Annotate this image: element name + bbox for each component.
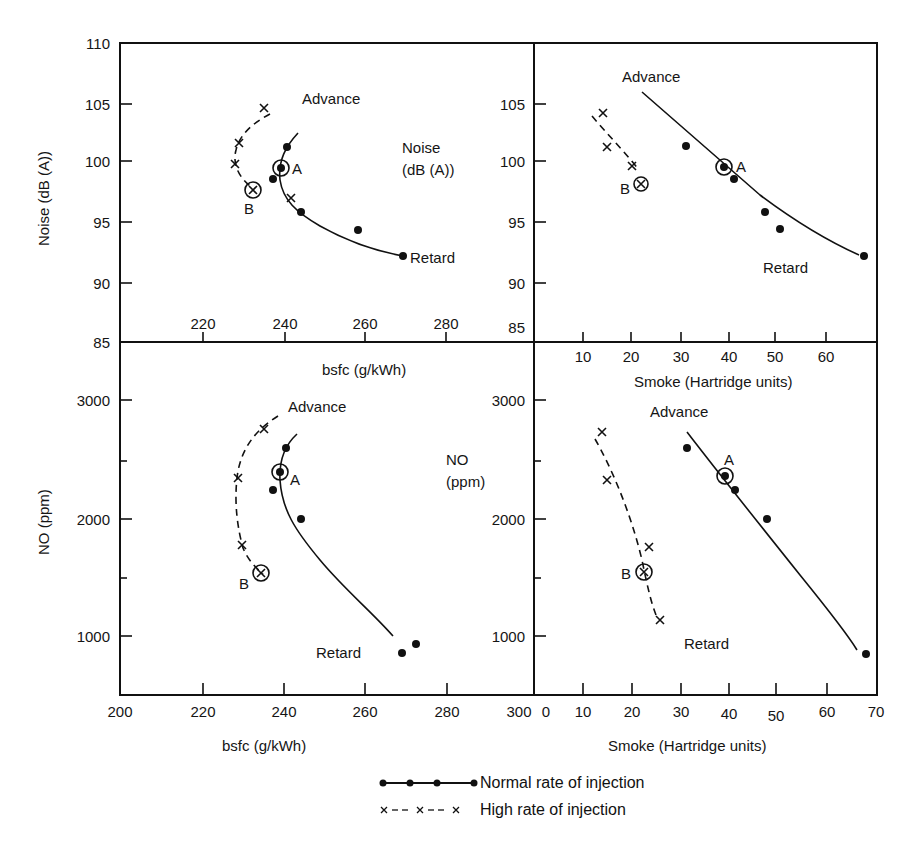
axis-label-no: NO (ppm) [36, 489, 51, 555]
tick-noise-right-95: 95 [465, 215, 525, 230]
tick-noise-right-100: 100 [465, 154, 525, 169]
advance-label-ur: Advance [622, 69, 680, 84]
tick-smoke-20: 20 [607, 704, 657, 719]
retard-label-ul: Retard [410, 250, 455, 265]
tick-smoke-60: 60 [802, 704, 852, 719]
tick-bsfc-200: 200 [95, 704, 145, 719]
tick-noise-95: 95 [50, 215, 110, 230]
normal-curve [687, 432, 857, 650]
point-a-label-ll: A [290, 472, 300, 487]
tick-no-right-1000: 1000 [465, 629, 525, 644]
retard-label-lr: Retard [684, 636, 729, 651]
tick-smoke-top-30: 30 [656, 349, 706, 364]
point-a-label-lr: A [724, 452, 734, 467]
panel-noise-bsfc [231, 104, 407, 260]
point-a-label-ur: A [736, 159, 746, 174]
retard-label-ll: Retard [316, 645, 361, 660]
tick-smoke-top-60: 60 [801, 349, 851, 364]
tick-no-1000: 1000 [50, 629, 110, 644]
high-curve [236, 416, 278, 574]
retard-label-ur: Retard [763, 260, 808, 275]
tick-smoke-top-10: 10 [558, 349, 608, 364]
high-curve [592, 116, 639, 170]
tick-noise-right-85: 85 [465, 320, 525, 335]
high-points [234, 425, 268, 577]
legend-normal-label: Normal rate of injection [480, 775, 645, 791]
tick-bsfc-top-240: 240 [260, 316, 310, 331]
tick-noise-85: 85 [50, 335, 110, 350]
high-points [599, 109, 645, 188]
high-curve [235, 114, 270, 186]
point-a-label-ul: A [292, 161, 302, 176]
tick-bsfc-280: 280 [422, 704, 472, 719]
high-curve [595, 439, 656, 615]
tick-noise-right-105: 105 [465, 97, 525, 112]
point-b-label-lr: B [621, 566, 631, 581]
tick-smoke-70: 70 [851, 704, 901, 719]
plot-frame [120, 43, 877, 695]
axis-label-bsfc-top: bsfc (g/kWh) [322, 362, 406, 377]
advance-label-ll: Advance [288, 399, 346, 414]
tick-noise-right-90: 90 [465, 276, 525, 291]
panel-noise-smoke [592, 92, 868, 260]
normal-curve [280, 434, 393, 636]
tick-noise-100: 100 [50, 154, 110, 169]
tick-noise-110: 110 [50, 36, 110, 51]
point-b-label-ul: B [244, 201, 254, 216]
tick-bsfc-top-280: 280 [421, 316, 471, 331]
tick-bsfc-260: 260 [340, 704, 390, 719]
tick-bsfc-top-260: 260 [340, 316, 390, 331]
tick-bsfc-220: 220 [178, 704, 228, 719]
tick-no-right-3000: 3000 [465, 393, 525, 408]
tick-smoke-top-40: 40 [704, 349, 754, 364]
tick-no-right-2000: 2000 [465, 512, 525, 527]
tick-no-2000: 2000 [50, 512, 110, 527]
normal-curve [280, 133, 403, 256]
advance-label-lr: Advance [650, 404, 708, 419]
legend-high-label: High rate of injection [480, 802, 626, 818]
tick-bsfc-240: 240 [259, 704, 309, 719]
tick-smoke-10: 10 [558, 704, 608, 719]
axis-label-bsfc-bottom: bsfc (g/kWh) [222, 738, 306, 753]
point-b-label-ur: B [620, 181, 630, 196]
tick-smoke-50: 50 [751, 708, 801, 723]
inline-noise-label-1: Noise [402, 140, 440, 155]
normal-points [682, 142, 868, 260]
normal-points [683, 444, 870, 658]
normal-curve [642, 92, 859, 255]
tick-smoke-40: 40 [704, 706, 754, 721]
tick-smoke-top-20: 20 [606, 349, 656, 364]
panel-no-bsfc [234, 416, 420, 657]
high-points [598, 428, 664, 624]
inline-noise-label-2: (dB (A)) [402, 162, 455, 177]
tick-smoke-30: 30 [656, 704, 706, 719]
advance-label-ul: Advance [302, 91, 360, 106]
tick-no-3000: 3000 [50, 393, 110, 408]
tick-smoke-top-50: 50 [750, 349, 800, 364]
inline-no-label-2: (ppm) [446, 474, 485, 489]
axis-label-smoke-bottom: Smoke (Hartridge units) [608, 738, 766, 753]
tick-noise-90: 90 [50, 276, 110, 291]
legend-graphics [380, 780, 478, 814]
axis-label-noise: Noise (dB (A)) [36, 151, 51, 246]
figure: 110 105 100 95 90 85 105 100 95 90 85 30… [0, 0, 917, 844]
point-b-label-ll: B [239, 576, 249, 591]
high-points [231, 104, 295, 202]
tick-noise-105: 105 [50, 97, 110, 112]
axis-label-smoke-top: Smoke (Hartridge units) [634, 374, 792, 389]
tick-bsfc-top-220: 220 [178, 316, 228, 331]
inline-no-label-1: NO [446, 452, 469, 467]
